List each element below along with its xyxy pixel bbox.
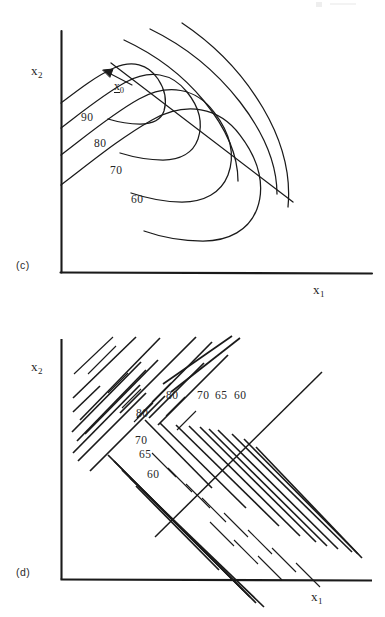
contour-line-d: [73, 385, 140, 453]
contour-line-d: [78, 393, 146, 461]
contour-label-d-row-70: 70: [197, 389, 210, 401]
x-axis-label-c: x1: [313, 282, 325, 299]
contour-line-d: [256, 447, 362, 558]
contour-curve-60: [61, 109, 261, 241]
contour-label-d-col-60: 60: [147, 468, 160, 480]
contour-label-d-col-70: 70: [135, 434, 148, 446]
contour-curve-outer-3: [182, 23, 289, 207]
contour-line-d-dashed: [248, 530, 272, 554]
panel-tag-d: (d): [16, 566, 30, 578]
contour-line-d-dashed: [168, 468, 192, 492]
x0-vector-label: x0: [114, 80, 124, 95]
contour-line-d-dashed: [177, 411, 196, 430]
contour-label-c-70: 70: [110, 164, 123, 176]
contour-label-c-80: 80: [94, 137, 107, 149]
contour-label-d-col-65: 65: [139, 448, 152, 460]
constraint-line-c: [111, 63, 293, 202]
contour-curve-outer-1: [124, 40, 238, 181]
x-axis-c: [61, 273, 373, 274]
contour-line-d: [218, 430, 338, 549]
contour-line-d: [200, 427, 316, 542]
contour-label-c-90: 90: [81, 111, 94, 123]
contour-label-d-row-60: 60: [234, 389, 247, 401]
x-axis-label-d: x1: [311, 589, 323, 606]
contour-label-c-60: 60: [131, 193, 144, 205]
contour-line-d-dashed: [296, 563, 320, 587]
figure-page: x2 x1 (c) x0 90 80 70 60: [0, 0, 385, 617]
contour-line-d-dashed: [224, 513, 248, 537]
contour-line-d: [171, 338, 240, 392]
contour-label-d-row-80: 80: [166, 389, 179, 401]
contour-label-d-row-65: 65: [215, 389, 228, 401]
contour-line-d: [209, 429, 327, 546]
contour-line-d-dashed: [202, 498, 226, 522]
panel-tag-c: (c): [16, 259, 30, 271]
x0-subscript: 0: [120, 85, 124, 95]
contour-label-d-col-80: 80: [136, 407, 149, 419]
contour-line-d: [120, 337, 196, 413]
contour-curve-70: [61, 90, 231, 202]
contour-line-d: [90, 396, 165, 471]
y-axis-label-c: x2: [31, 63, 43, 80]
contour-line-d: [130, 478, 264, 607]
contour-line-d-dashed: [186, 484, 210, 508]
contour-line-d-dashed: [210, 522, 234, 546]
contour-line-d: [232, 434, 352, 552]
panel-d: x2 x1 (d) 80 70 65 60 80 70 65 60: [0, 308, 385, 617]
panel-d-drawing: [0, 308, 385, 617]
contour-line-d: [77, 370, 146, 441]
x-axis-d: [61, 580, 373, 581]
panel-c: x2 x1 (c) x0 90 80 70 60: [0, 0, 385, 308]
contour-line-d-dashed: [234, 540, 258, 564]
contour-line-d-dashed: [258, 556, 282, 580]
panel-c-drawing: [0, 0, 385, 308]
contour-line-d: [72, 362, 141, 432]
contour-line-d-dashed: [272, 548, 296, 572]
contour-line-d-dashed: [108, 373, 128, 393]
y-axis-label-d: x2: [31, 359, 43, 376]
contour-line-d: [136, 486, 219, 570]
